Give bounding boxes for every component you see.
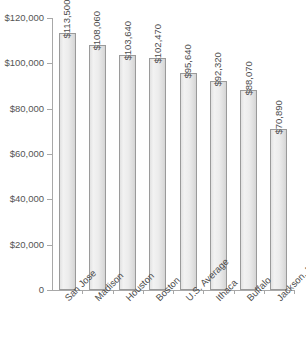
bar-value-label: $92,320 xyxy=(213,52,223,86)
bar-chart: 0$20,000$40,000$60,000$80,000$100,000$12… xyxy=(0,0,306,351)
bar-value-label: $102,470 xyxy=(152,24,162,64)
bar-value-label: $113,500 xyxy=(62,0,72,38)
bar-value-label: $70,890 xyxy=(273,100,283,134)
bar xyxy=(180,73,197,290)
bar xyxy=(240,90,257,290)
bar-value-label: $108,060 xyxy=(92,11,102,51)
bar xyxy=(89,45,106,290)
bar-value-label: $103,640 xyxy=(122,21,132,61)
bar xyxy=(149,58,166,290)
bar xyxy=(59,33,76,290)
bar xyxy=(270,129,287,290)
bar-value-label: $95,640 xyxy=(183,44,193,78)
bar-value-label: $88,070 xyxy=(243,62,253,96)
bar xyxy=(119,55,136,290)
